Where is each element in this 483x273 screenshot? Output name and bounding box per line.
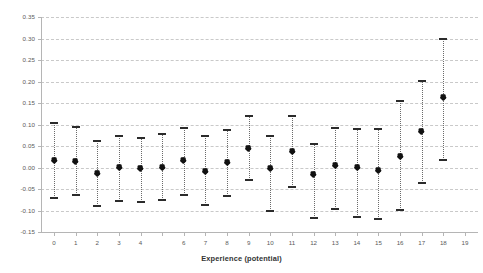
x-axis-tick-label: 6 (172, 239, 196, 246)
gridline-horizontal (41, 17, 478, 18)
error-bar-cap-lower (245, 179, 253, 181)
x-axis-tick-label: 17 (410, 239, 434, 246)
y-axis-tick-label: -0.15 (0, 228, 35, 235)
data-point-marker (159, 164, 165, 170)
gridline-horizontal (41, 146, 478, 147)
error-bar-cap-lower (93, 205, 101, 207)
x-axis-tick-label: 4 (129, 239, 153, 246)
error-bar-cap-upper (331, 127, 339, 129)
error-bar (378, 129, 379, 218)
error-bar-cap-upper (374, 128, 382, 130)
error-bar-cap-lower (331, 208, 339, 210)
error-bar-cap-upper (93, 140, 101, 142)
gridline-horizontal (41, 82, 478, 83)
x-axis-tick-mark (270, 233, 271, 236)
error-bar-cap-lower (288, 186, 296, 188)
x-axis-title: Experience (potential) (0, 254, 483, 263)
x-axis-tick-label: 19 (453, 239, 477, 246)
x-axis-line (41, 232, 478, 233)
error-bar (335, 128, 336, 209)
x-axis-tick-mark (227, 233, 228, 236)
error-bar-cap-upper (288, 115, 296, 117)
x-axis-tick-label: 3 (107, 239, 131, 246)
error-bar-cap-upper (223, 129, 231, 131)
y-axis-line (41, 17, 42, 232)
data-point-marker (354, 164, 360, 170)
error-bar-cap-upper (245, 115, 253, 117)
error-bar-cap-upper (396, 100, 404, 102)
data-point-marker (116, 164, 122, 170)
y-axis-tick-label: 0.25 (0, 56, 35, 63)
data-point-marker (440, 94, 446, 100)
x-axis-tick-label: 15 (366, 239, 390, 246)
chart-container: Experience (potential) 0.350.300.250.200… (0, 0, 483, 273)
data-point-marker (310, 171, 316, 177)
x-axis-tick-label: 9 (237, 239, 261, 246)
x-axis-tick-label: 12 (302, 239, 326, 246)
x-axis-tick-mark (292, 233, 293, 236)
gridline-horizontal (41, 60, 478, 61)
error-bar-cap-lower (180, 194, 188, 196)
error-bar-cap-lower (115, 200, 123, 202)
data-point-marker (181, 157, 187, 163)
data-point-marker (418, 128, 424, 134)
x-axis-tick-mark (205, 233, 206, 236)
x-axis-tick-label: 13 (323, 239, 347, 246)
data-point-marker (137, 165, 143, 171)
error-bar-cap-lower (418, 182, 426, 184)
data-point-marker (397, 153, 403, 159)
gridline-horizontal (41, 211, 478, 212)
data-point-marker (267, 166, 273, 172)
error-bar-cap-upper (418, 80, 426, 82)
error-bar-cap-upper (180, 127, 188, 129)
error-bar-cap-upper (266, 135, 274, 137)
gridline-horizontal (41, 125, 478, 126)
x-axis-tick-label: 11 (280, 239, 304, 246)
x-axis-tick-mark (97, 233, 98, 236)
x-axis-tick-mark (378, 233, 379, 236)
x-axis-tick-label: 0 (42, 239, 66, 246)
data-point-marker (72, 158, 78, 164)
error-bar-cap-lower (266, 210, 274, 212)
error-bar-cap-upper (137, 137, 145, 139)
error-bar-cap-lower (310, 217, 318, 219)
y-axis-tick-label: -0.10 (0, 207, 35, 214)
data-point-marker (51, 157, 57, 163)
x-axis-tick-mark (400, 233, 401, 236)
error-bar (270, 136, 271, 211)
x-axis-tick-mark (465, 233, 466, 236)
error-bar-cap-lower (374, 218, 382, 220)
error-bar-cap-lower (353, 216, 361, 218)
x-axis-tick-mark (335, 233, 336, 236)
error-bar (314, 144, 315, 218)
x-axis-tick-label: 7 (193, 239, 217, 246)
gridline-horizontal (41, 103, 478, 104)
error-bar-cap-upper (353, 128, 361, 130)
error-bar-cap-lower (158, 199, 166, 201)
error-bar-cap-upper (115, 135, 123, 137)
error-bar-cap-lower (439, 159, 447, 161)
x-axis-tick-mark (314, 233, 315, 236)
error-bar-cap-upper (158, 133, 166, 135)
x-axis-tick-mark (184, 233, 185, 236)
x-axis-tick-mark (54, 233, 55, 236)
x-axis-tick-mark (162, 233, 163, 236)
error-bar-cap-upper (310, 143, 318, 145)
error-bar-cap-lower (137, 201, 145, 203)
x-axis-tick-mark (443, 233, 444, 236)
x-axis-tick-label: 8 (215, 239, 239, 246)
gridline-horizontal (41, 39, 478, 40)
y-axis-tick-label: 0.00 (0, 164, 35, 171)
y-axis-tick-label: 0.20 (0, 78, 35, 85)
error-bar-cap-lower (72, 194, 80, 196)
y-axis-tick-label: 0.30 (0, 35, 35, 42)
x-axis-tick-label: 10 (258, 239, 282, 246)
error-bar (357, 129, 358, 217)
gridline-horizontal (41, 189, 478, 190)
error-bar-cap-upper (201, 135, 209, 137)
x-axis-tick-mark (249, 233, 250, 236)
x-axis-tick-label: 16 (388, 239, 412, 246)
gridline-horizontal (41, 168, 478, 169)
data-point-marker (289, 148, 295, 154)
y-axis-tick-label: 0.15 (0, 99, 35, 106)
